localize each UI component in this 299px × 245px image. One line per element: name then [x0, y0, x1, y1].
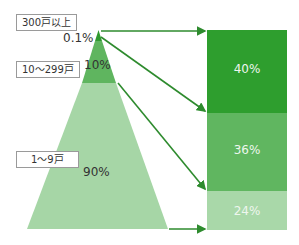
pct-1-9: 90% — [83, 165, 110, 179]
pyramid-segment-300plus — [95, 30, 102, 41]
bar-pct-36: 36% — [207, 143, 287, 157]
bar-pct-24: 24% — [207, 204, 287, 218]
label-10-299: 10〜299戸 — [16, 61, 80, 78]
label-300plus: 300戸以上 — [16, 14, 77, 31]
label-1-9: 1〜9戸 — [16, 151, 79, 168]
bar-pct-40: 40% — [207, 62, 287, 76]
pct-300plus: 0.1% — [63, 31, 94, 45]
pct-10-299: 10% — [84, 58, 111, 72]
